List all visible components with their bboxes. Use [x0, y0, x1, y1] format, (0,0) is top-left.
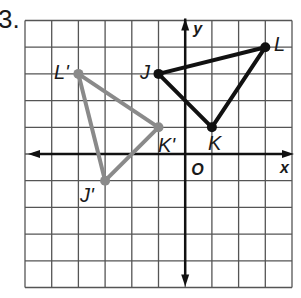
vertex-point-k — [207, 122, 217, 132]
coordinate-plane: x y O J K L J' K' L' — [0, 0, 301, 298]
y-axis-arrow-down-icon — [181, 275, 189, 287]
vertex-point-k-prime — [154, 122, 164, 132]
vertex-point-l-prime — [73, 69, 83, 79]
x-axis-arrow-left-icon — [28, 150, 40, 158]
vertex-point-j — [154, 69, 164, 79]
vertex-label-k-prime: K' — [158, 134, 176, 156]
vertex-point-l — [260, 42, 270, 52]
x-axis-label: x — [279, 159, 290, 176]
origin-label: O — [191, 161, 204, 178]
vertex-label-l-prime: L' — [54, 61, 70, 83]
vertex-label-l: L — [274, 33, 285, 55]
vertex-label-j: J — [139, 61, 151, 83]
vertex-label-j-prime: J' — [79, 184, 95, 206]
y-axis-label: y — [192, 20, 203, 37]
vertex-label-k: K — [208, 132, 223, 154]
vertex-point-j-prime — [100, 176, 110, 186]
